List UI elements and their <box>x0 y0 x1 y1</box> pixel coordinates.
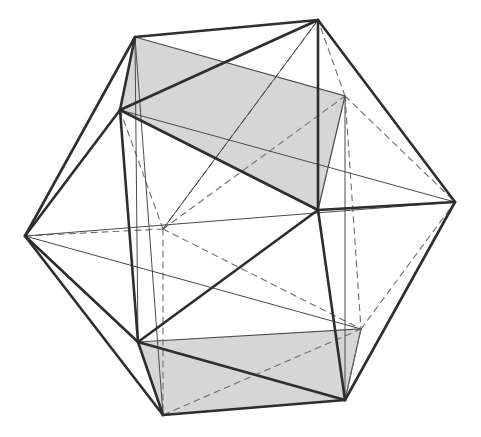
shaded-golden-rectangle <box>120 37 345 210</box>
icosahedron-figure <box>0 0 481 437</box>
visible-edge <box>345 202 455 400</box>
icosahedron-diagram <box>0 0 481 437</box>
hidden-edge <box>318 20 345 96</box>
hidden-edge <box>361 202 455 329</box>
visible-edge <box>120 110 138 342</box>
visible-edge <box>25 110 120 236</box>
hidden-edge <box>345 96 455 202</box>
visible-edge <box>135 20 318 37</box>
construction-line <box>25 202 455 236</box>
visible-edge <box>318 202 455 210</box>
visible-edge <box>25 236 163 415</box>
hidden-edge <box>163 229 361 329</box>
visible-edge <box>25 37 135 236</box>
hidden-edge <box>345 96 361 329</box>
